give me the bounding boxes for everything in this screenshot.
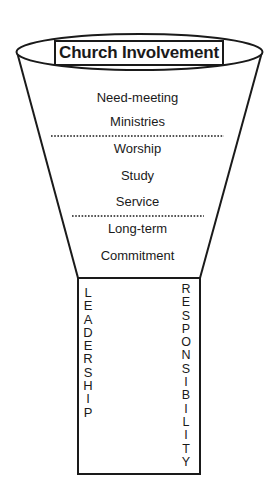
funnel-left-edge (17, 52, 78, 278)
responsibility-letter: I (184, 376, 187, 389)
responsibility-letter: N (181, 349, 190, 362)
responsibility-letter: I (184, 403, 187, 416)
responsibility-letter: P (182, 323, 190, 336)
responsibility-letter: O (181, 336, 191, 349)
section-2-line-2: Study (0, 168, 275, 184)
section-3-line-1: Long-term (0, 221, 275, 237)
leadership-letter: P (84, 406, 93, 419)
leadership-letter: I (86, 392, 90, 405)
leadership-letter: H (83, 379, 92, 392)
section-1-line-2: Ministries (0, 114, 275, 130)
diagram-title: Church Involvement (54, 40, 224, 66)
leadership-vertical-label: L E A D E R S H I P (81, 286, 95, 419)
responsibility-letter: T (182, 443, 190, 456)
leadership-letter: A (84, 313, 93, 326)
leadership-letter: L (84, 286, 91, 299)
leadership-letter: S (84, 366, 93, 379)
responsibility-letter: S (182, 310, 190, 323)
responsibility-letter: Y (182, 456, 190, 469)
responsibility-letter: L (183, 416, 190, 429)
responsibility-letter: E (182, 296, 190, 309)
responsibility-letter: S (182, 363, 190, 376)
leadership-letter: E (84, 299, 93, 312)
church-involvement-funnel-diagram: Church Involvement Need-meeting Ministri… (0, 0, 275, 501)
responsibility-letter: R (181, 283, 190, 296)
funnel-right-edge (200, 52, 262, 278)
leadership-letter: E (84, 339, 93, 352)
responsibility-vertical-label: R E S P O N S I B I L I T Y (179, 283, 193, 469)
section-3-line-2: Commitment (0, 248, 275, 264)
section-2-line-3: Service (0, 194, 275, 210)
responsibility-letter: I (184, 429, 187, 442)
responsibility-letter: B (182, 389, 190, 402)
section-2-line-1: Worship (0, 141, 275, 157)
leadership-letter: D (83, 326, 92, 339)
leadership-letter: R (83, 352, 92, 365)
section-1-line-1: Need-meeting (0, 90, 275, 106)
